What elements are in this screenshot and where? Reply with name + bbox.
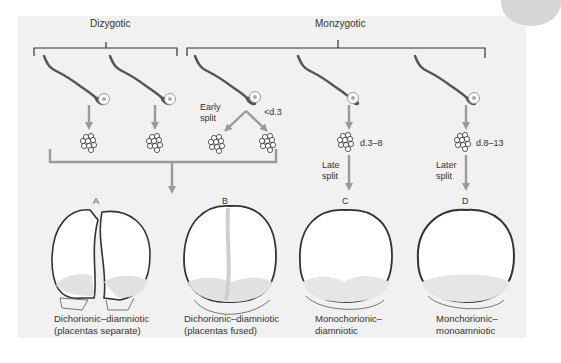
outcome-c-caption: Monochorionic–diamniotic	[315, 313, 382, 337]
dizygotic-bracket	[34, 42, 177, 56]
outcome-d-illustration	[418, 210, 514, 309]
monozygotic-bracket	[187, 40, 485, 58]
outcome-d-letter: D	[462, 196, 469, 207]
outcome-b-letter: B	[222, 196, 228, 207]
dizygotic-label: Dizygotic	[90, 18, 131, 29]
outcome-c-letter: C	[342, 196, 349, 207]
outcome-c-illustration	[300, 210, 392, 310]
monozygotic-label: Monzygotic	[315, 18, 366, 29]
late-timing-label: d.3–8	[360, 138, 383, 149]
late-split-label: Latesplit	[322, 160, 340, 182]
outcome-d-caption: Monchorionic–monoamniotic	[436, 313, 498, 337]
outcome-a-caption: Dichorionic–diamniotic(placentas separat…	[54, 313, 149, 337]
outcome-a-illustration	[52, 210, 150, 310]
outcome-b-illustration	[184, 206, 276, 314]
early-timing-label: <d.3	[264, 107, 282, 118]
later-split-label: Latersplit	[436, 160, 457, 182]
later-timing-label: d.8–13	[476, 138, 504, 149]
outcome-b-caption: Dichorionic–diamniotic(placentas fused)	[184, 313, 279, 337]
outcome-a-letter: A	[93, 196, 99, 207]
early-split-label: Earlysplit	[200, 102, 221, 124]
arrows	[50, 105, 466, 190]
